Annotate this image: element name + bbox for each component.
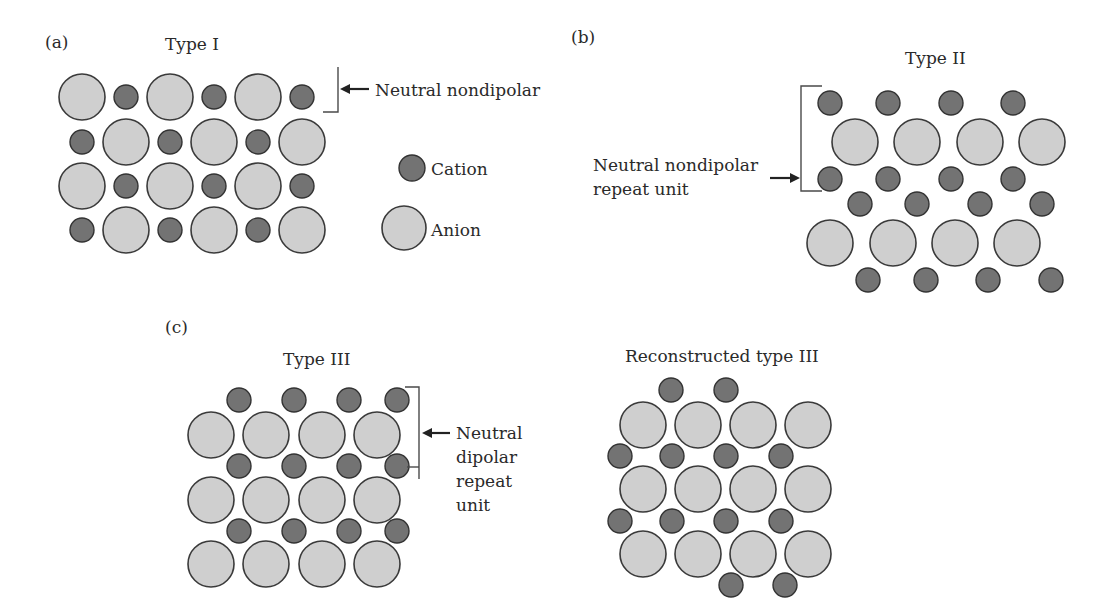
cation-circle <box>70 218 94 242</box>
type-iii-lattice <box>188 388 409 587</box>
cation-circle <box>1030 192 1054 216</box>
anion-circle <box>870 220 916 266</box>
anion-circle <box>785 402 831 448</box>
anion-circle <box>103 207 149 253</box>
cation-circle <box>714 378 738 402</box>
panel-c2-title: Reconstructed type III <box>625 346 819 366</box>
cation-circle <box>608 509 632 533</box>
panel-b-label: (b) <box>571 27 595 47</box>
cation-circle <box>158 130 182 154</box>
anion-circle <box>243 477 289 523</box>
anion-circle <box>299 477 345 523</box>
cation-circle <box>246 218 270 242</box>
cation-circle <box>608 444 632 468</box>
anion-circle <box>243 541 289 587</box>
legend-cation-label: Cation <box>431 159 488 179</box>
anion-circle <box>932 220 978 266</box>
cation-circle <box>660 509 684 533</box>
anion-circle <box>994 220 1040 266</box>
panel-b-title: Type II <box>905 48 966 68</box>
anion-circle <box>354 412 400 458</box>
anion-circle <box>785 531 831 577</box>
cation-circle <box>818 91 842 115</box>
anion-circle <box>730 466 776 512</box>
anion-circle <box>235 163 281 209</box>
anion-circle <box>730 531 776 577</box>
type-i-arrow-icon <box>340 84 369 94</box>
cation-circle <box>914 268 938 292</box>
anion-circle <box>235 74 281 120</box>
cation-circle <box>714 444 738 468</box>
anion-circle <box>730 402 776 448</box>
panel-a: (a) Type I Neutral nondipolar Cation Ani… <box>45 32 541 253</box>
cation-circle <box>337 519 361 543</box>
cation-circle <box>976 268 1000 292</box>
legend-cation-swatch <box>399 155 425 181</box>
cation-circle <box>290 85 314 109</box>
panel-b: (b) Type II Neutral nondipolar repeat un… <box>571 27 1065 292</box>
type-ii-arrow-icon <box>770 173 800 183</box>
type-iii-annotation-line-4: unit <box>456 495 490 515</box>
anion-circle <box>243 412 289 458</box>
type-i-lattice <box>59 74 325 253</box>
anion-circle <box>59 74 105 120</box>
anion-circle <box>279 207 325 253</box>
cation-circle <box>659 378 683 402</box>
cation-circle <box>337 454 361 478</box>
cation-circle <box>818 167 842 191</box>
anion-circle <box>620 402 666 448</box>
anion-circle <box>147 163 193 209</box>
anion-circle <box>1019 119 1065 165</box>
type-i-repeat-bracket <box>323 67 338 112</box>
anion-circle <box>785 466 831 512</box>
cation-circle <box>290 174 314 198</box>
cation-circle <box>939 167 963 191</box>
anion-circle <box>957 119 1003 165</box>
cation-circle <box>1039 268 1063 292</box>
anion-circle <box>620 531 666 577</box>
cation-circle <box>939 91 963 115</box>
cation-circle <box>227 454 251 478</box>
anion-circle <box>103 119 149 165</box>
anion-circle <box>191 119 237 165</box>
type-iii-arrow-icon <box>422 428 450 438</box>
cation-circle <box>282 388 306 412</box>
type-ii-annotation-line-1: Neutral nondipolar <box>593 155 759 175</box>
type-iii-annotation-line-1: Neutral <box>456 423 522 443</box>
anion-circle <box>832 119 878 165</box>
anion-circle <box>354 541 400 587</box>
anion-circle <box>191 207 237 253</box>
anion-circle <box>675 466 721 512</box>
cation-circle <box>848 192 872 216</box>
cation-circle <box>660 444 684 468</box>
cation-circle <box>905 192 929 216</box>
anion-circle <box>299 412 345 458</box>
cation-circle <box>202 85 226 109</box>
cation-circle <box>158 218 182 242</box>
type-ii-annotation-line-2: repeat unit <box>593 179 689 199</box>
cation-circle <box>773 573 797 597</box>
anion-circle <box>188 477 234 523</box>
type-i-annotation: Neutral nondipolar <box>375 80 541 100</box>
panel-a-title: Type I <box>165 34 219 54</box>
cation-circle <box>70 130 94 154</box>
cation-circle <box>246 130 270 154</box>
anion-circle <box>620 466 666 512</box>
cation-circle <box>876 167 900 191</box>
cation-circle <box>202 174 226 198</box>
cation-circle <box>769 509 793 533</box>
anion-circle <box>354 477 400 523</box>
cation-circle <box>385 454 409 478</box>
legend-anion-label: Anion <box>430 220 481 240</box>
legend-anion-swatch <box>382 206 426 250</box>
ionic-surface-diagram: (a) Type I Neutral nondipolar Cation Ani… <box>0 0 1112 611</box>
anion-circle <box>807 220 853 266</box>
cation-circle <box>876 91 900 115</box>
anion-circle <box>188 541 234 587</box>
reconstructed-type-iii-lattice <box>608 378 831 597</box>
type-ii-lattice <box>807 91 1065 292</box>
anion-circle <box>59 163 105 209</box>
cation-circle <box>714 509 738 533</box>
type-iii-annotation-line-2: dipolar <box>456 447 518 467</box>
panel-a-label: (a) <box>45 32 68 52</box>
